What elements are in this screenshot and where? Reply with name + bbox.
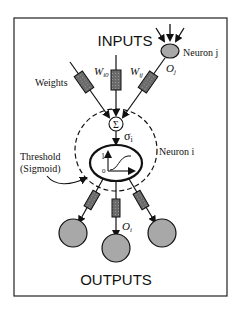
output-node-center <box>102 234 130 262</box>
axis-one: 1 <box>101 152 105 161</box>
sum-symbol: Σ <box>113 119 119 130</box>
weight-i0 <box>111 70 121 90</box>
weights-label: Weights <box>35 77 68 88</box>
sigmoid-label: (Sigmoid) <box>20 163 61 175</box>
o-i-label: Oi <box>122 220 132 234</box>
w-i0-label: Wi0 <box>94 65 109 79</box>
output-node-left <box>59 219 87 247</box>
threshold-label: Threshold <box>20 151 61 162</box>
activation-function-node <box>90 145 142 181</box>
w-ij-label: Wij <box>130 65 143 79</box>
neuron-j-label: Neuron j <box>183 47 218 58</box>
neuron-i-label: Neuron i <box>159 146 194 157</box>
neuron-diagram: INPUTS Neuron j Weights Wi0 Wij Oj Neuro… <box>0 0 241 309</box>
axis-zero: 0 <box>102 167 106 175</box>
weight-left <box>74 71 94 93</box>
output-node-right <box>148 219 176 247</box>
o-j-label: Oj <box>166 62 176 76</box>
neuron-j-node <box>161 44 179 58</box>
inputs-label: INPUTS <box>97 32 152 49</box>
sigma-i-label: σi <box>124 129 133 144</box>
outputs-label: OUTPUTS <box>80 271 152 288</box>
